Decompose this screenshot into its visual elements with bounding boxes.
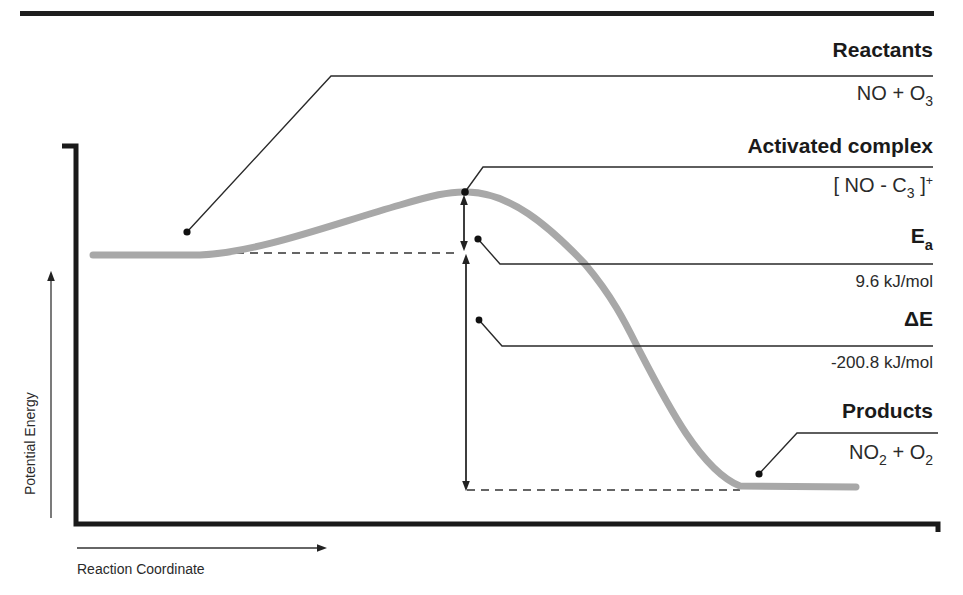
leader-activation-energy — [474, 235, 933, 264]
products-title: Products — [842, 399, 933, 423]
activated-complex-formula: [ NO - C3 ]+ — [833, 174, 933, 201]
delta-e-value: -200.8 kJ/mol — [831, 353, 933, 373]
activated-complex-formula-sub: 3 — [907, 185, 915, 201]
delta-e-title: ΔE — [904, 307, 933, 331]
delta-e-title-text: ΔE — [904, 307, 933, 330]
products-formula-a: NO — [849, 441, 879, 463]
delta-e-value-text: -200.8 kJ/mol — [831, 353, 933, 372]
top-rule — [20, 11, 934, 16]
activated-complex-title: Activated complex — [747, 134, 933, 158]
activation-energy-title: Ea — [911, 224, 933, 253]
reactants-formula: NO + O3 — [857, 82, 933, 109]
products-title-text: Products — [842, 399, 933, 422]
products-formula: NO2 + O2 — [849, 441, 933, 468]
leader-delta-e — [476, 317, 933, 346]
activated-complex-formula-pre: [ NO - C — [833, 174, 906, 196]
axes — [62, 146, 938, 532]
reactants-title: Reactants — [833, 38, 933, 62]
activated-complex-formula-sup: + — [926, 174, 933, 188]
products-formula-plus: + O — [887, 441, 925, 463]
products-formula-b-sub: 2 — [925, 452, 933, 468]
activation-energy-title-sub: a — [925, 237, 933, 253]
reactants-formula-main: NO + O — [857, 82, 925, 104]
reactants-formula-sub: 3 — [925, 93, 933, 109]
products-formula-a-sub: 2 — [879, 452, 887, 468]
activated-complex-formula-post: ] — [915, 174, 926, 196]
energy-diagram — [0, 0, 963, 595]
activation-energy-value: 9.6 kJ/mol — [856, 272, 933, 292]
activated-complex-title-text: Activated complex — [747, 134, 933, 157]
x-axis-label: Reaction Coordinate — [77, 561, 205, 577]
activation-energy-value-text: 9.6 kJ/mol — [856, 272, 933, 291]
y-axis-label: Potential Energy — [22, 392, 38, 495]
reactants-title-text: Reactants — [833, 38, 933, 61]
activation-energy-title-main: E — [911, 224, 925, 247]
energy-curve — [93, 192, 856, 487]
